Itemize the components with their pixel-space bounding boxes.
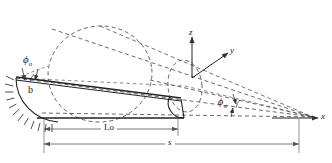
figure-container: ϕo ϕw b z y x Lo s [0,0,332,163]
axis-label-z: z [189,28,193,37]
axis-label-y: y [230,46,234,55]
dimension-extension-lines [44,119,299,153]
phi-o-label: ϕo [23,54,32,68]
axis-label-x: x [321,112,325,121]
coordinate-axes [192,37,318,118]
dimension-label-s: s [165,138,175,147]
beam-solid-top-edge [16,77,181,101]
phi-o-subscript: o [29,60,32,67]
dimension-label-lo: Lo [101,123,117,132]
phi-w-label: ϕw [218,97,227,109]
cone-generator-lines [16,26,313,117]
width-b-label: b [28,85,33,95]
phi-w-subscript: w [223,102,227,109]
cone-large-end-ellipse [43,21,156,127]
